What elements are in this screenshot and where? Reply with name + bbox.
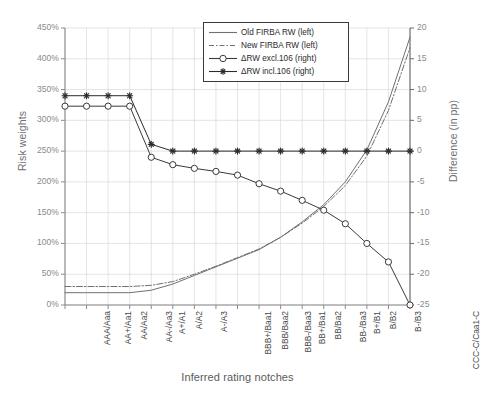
series-marker-circle xyxy=(213,168,219,174)
series-marker-star xyxy=(342,148,348,154)
series-marker-circle xyxy=(385,259,391,265)
series-marker-star xyxy=(256,148,262,154)
chart-legend: Old FIRBA RW (left)New FIRBA RW (left)ΔR… xyxy=(203,22,349,82)
series-marker-star xyxy=(278,148,284,154)
x-axis-tick-label: A/A2 xyxy=(194,311,204,329)
y-axis-left-tick-label: 400% xyxy=(15,53,59,63)
legend-item-label: ΔRW excl.106 (right) xyxy=(238,54,316,63)
series-marker-circle xyxy=(62,103,68,109)
x-axis-tick-label: BBB/Baa2 xyxy=(279,311,289,350)
y-axis-right-tick-label: -5 xyxy=(417,176,461,186)
x-axis-tick-label: B-/B3 xyxy=(413,311,423,332)
x-axis-tick-label: A-/A3 xyxy=(219,311,229,332)
x-axis-tick-label: A+/A1 xyxy=(178,311,188,334)
y-axis-right-tick-label: 5 xyxy=(417,114,461,124)
legend-item: New FIRBA RW (left) xyxy=(208,39,344,52)
x-axis-tick-label: AA+/Aa1 xyxy=(123,311,133,344)
x-axis-tick-label: AAA/Aaa xyxy=(102,311,112,345)
series-marker-star xyxy=(407,148,413,154)
series-marker-star xyxy=(127,93,133,99)
y-axis-right-tick-label: -10 xyxy=(417,207,461,217)
series-marker-circle xyxy=(191,165,197,171)
series-marker-circle xyxy=(105,103,111,109)
x-axis-tick-label: BB-/Ba3 xyxy=(358,311,368,342)
y-axis-right-tick-label: 10 xyxy=(417,84,461,94)
series-marker-circle xyxy=(407,302,413,308)
series-marker-star xyxy=(84,93,90,99)
series-marker-star xyxy=(299,148,305,154)
x-axis-tick-label: B/B2 xyxy=(388,311,398,329)
y-axis-left-tick-label: 450% xyxy=(15,22,59,32)
y-axis-right-tick-label: 20 xyxy=(417,22,461,32)
legend-item: Old FIRBA RW (left) xyxy=(208,26,344,39)
legend-item: ΔRW incl.106 (right) xyxy=(208,65,344,78)
y-axis-left-tick-label: 50% xyxy=(15,268,59,278)
legend-symbol-circle-icon xyxy=(208,52,238,65)
series-marker-circle xyxy=(148,154,154,160)
series-marker-circle xyxy=(299,197,305,203)
y-axis-left-tick-label: 350% xyxy=(15,84,59,94)
series-marker-circle xyxy=(278,188,284,194)
x-axis-tick-label: CCC-C/Caa1-C xyxy=(471,311,481,369)
legend-symbol-dash-dot-icon xyxy=(208,39,238,52)
series-marker-circle xyxy=(256,181,262,187)
series-marker-star xyxy=(321,148,327,154)
y-axis-right-tick-label: 0 xyxy=(417,145,461,155)
series-marker-circle xyxy=(342,221,348,227)
y-axis-left-tick-label: 100% xyxy=(15,237,59,247)
y-axis-left-tick-label: 300% xyxy=(15,114,59,124)
legend-item-label: New FIRBA RW (left) xyxy=(238,41,318,50)
series-marker-star xyxy=(213,148,219,154)
series-marker-star xyxy=(235,148,241,154)
series-marker-star xyxy=(170,148,176,154)
series-marker-star xyxy=(364,148,370,154)
x-axis-tick-label: BB+/Ba1 xyxy=(317,311,327,344)
x-axis-tick-label: AA/Aa2 xyxy=(140,311,150,339)
y-axis-left-tick-label: 150% xyxy=(15,207,59,217)
series-marker-star xyxy=(385,148,391,154)
y-axis-right-tick-label: -20 xyxy=(417,268,461,278)
series-marker-star xyxy=(62,93,68,99)
series-marker-star xyxy=(191,148,197,154)
y-axis-left-tick-label: 200% xyxy=(15,176,59,186)
series-marker-circle xyxy=(83,103,89,109)
y-axis-right-tick-label: -25 xyxy=(417,299,461,309)
y-axis-right-tick-label: 15 xyxy=(417,53,461,63)
series-marker-star xyxy=(105,93,111,99)
x-axis-tick-label: B+/B1 xyxy=(372,311,382,334)
series-marker-circle xyxy=(364,240,370,246)
legend-item: ΔRW excl.106 (right) xyxy=(208,52,344,65)
x-axis-tick-label: BB/Ba2 xyxy=(334,311,344,339)
legend-symbol-solid-icon xyxy=(208,26,238,39)
x-axis-tick-label: AA-/Aa3 xyxy=(164,311,174,342)
y-axis-left-tick-label: 250% xyxy=(15,145,59,155)
legend-symbol-star-icon xyxy=(208,65,238,78)
legend-item-label: ΔRW incl.106 (right) xyxy=(238,67,314,76)
y-axis-right-tick-label: -15 xyxy=(417,237,461,247)
x-axis-tick-label: BBB-/Baa3 xyxy=(304,311,314,352)
x-axis-tick-label: BBB+/Baa1 xyxy=(263,311,273,355)
series-marker-circle xyxy=(234,172,240,178)
x-axis-title: Inferred rating notches xyxy=(0,371,475,383)
series-marker-star xyxy=(148,141,154,147)
series-marker-circle xyxy=(127,103,133,109)
series-marker-circle xyxy=(321,207,327,213)
legend-item-label: Old FIRBA RW (left) xyxy=(238,28,314,37)
y-axis-left-tick-label: 0% xyxy=(15,299,59,309)
series-marker-circle xyxy=(170,162,176,168)
